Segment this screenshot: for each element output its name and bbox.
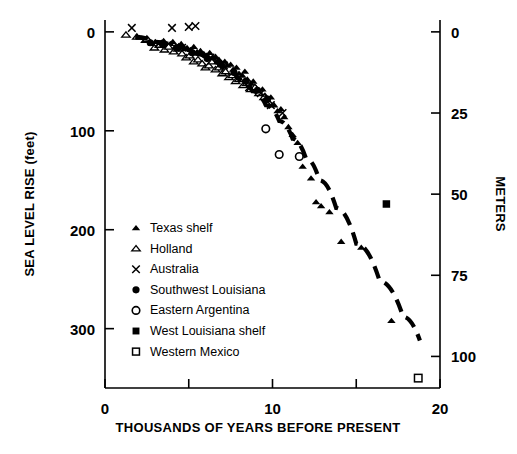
filled-circle-icon bbox=[147, 39, 154, 46]
open-square-icon bbox=[133, 348, 140, 355]
filled-circle-icon bbox=[242, 78, 249, 85]
bottom-tick-label: 10 bbox=[264, 400, 281, 417]
right-tick-label: 75 bbox=[451, 267, 468, 284]
x-axis-title: THOUSANDS OF YEARS BEFORE PRESENT bbox=[116, 420, 401, 435]
legend-item-label: West Louisiana shelf bbox=[150, 324, 266, 338]
right-axis-title: METERS bbox=[493, 176, 508, 231]
legend-item-label: Holland bbox=[150, 242, 192, 256]
series-west-louisiana-shelf bbox=[383, 200, 391, 208]
right-tick-label: 25 bbox=[451, 105, 468, 122]
legend-item-label: Southwest Louisiana bbox=[150, 283, 265, 297]
chart-canvas: 0100200300025507510001020 Texas shelfHol… bbox=[0, 0, 517, 454]
legend-item[interactable]: Southwest Louisiana bbox=[132, 283, 265, 297]
sea-level-rise-chart: 0100200300025507510001020 Texas shelfHol… bbox=[0, 0, 517, 454]
open-circle-icon bbox=[296, 153, 304, 161]
open-circle-icon bbox=[275, 151, 283, 159]
right-tick-label: 50 bbox=[451, 186, 468, 203]
left-axis-title: SEA LEVEL RISE (feet) bbox=[22, 131, 37, 276]
right-tick-label: 0 bbox=[451, 24, 459, 41]
legend-item-label: Australia bbox=[150, 262, 199, 276]
legend-item-label: Eastern Argentina bbox=[150, 303, 249, 317]
filled-square-icon bbox=[383, 200, 391, 208]
open-circle-icon bbox=[132, 307, 140, 315]
open-square-icon bbox=[414, 374, 422, 382]
left-tick-label: 300 bbox=[70, 321, 95, 338]
legend-item-label: Western Mexico bbox=[150, 345, 239, 359]
bottom-tick-label: 20 bbox=[432, 400, 449, 417]
legend-item[interactable]: Eastern Argentina bbox=[132, 303, 249, 317]
left-tick-label: 100 bbox=[70, 123, 95, 140]
series-western-mexico bbox=[414, 374, 422, 382]
filled-square-icon bbox=[133, 328, 140, 335]
filled-circle-icon bbox=[132, 286, 139, 293]
legend-item-label: Texas shelf bbox=[150, 221, 213, 235]
left-tick-label: 0 bbox=[87, 24, 95, 41]
open-circle-icon bbox=[262, 125, 270, 133]
left-tick-label: 200 bbox=[70, 222, 95, 239]
legend-item[interactable]: West Louisiana shelf bbox=[133, 324, 266, 338]
right-tick-label: 100 bbox=[451, 348, 476, 365]
bottom-tick-label: 0 bbox=[101, 400, 109, 417]
